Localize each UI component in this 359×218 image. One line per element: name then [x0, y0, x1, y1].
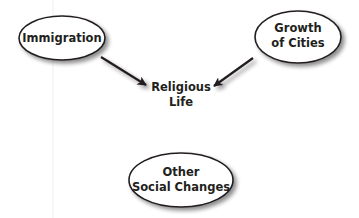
edge-immigration-to-religious-life — [101, 57, 146, 85]
node-growth-of-cities: Growth of Cities — [255, 11, 341, 63]
edge-growth-of-cities-to-religious-life — [214, 58, 253, 86]
node-label-line-1: Growth — [274, 21, 321, 35]
node-immigration: Immigration — [19, 16, 105, 60]
node-label-line-2: of Cities — [271, 36, 325, 50]
node-label-line-1: Other — [163, 165, 200, 179]
node-label: Immigration — [22, 31, 101, 45]
node-other-social-changes: Other Social Changes — [129, 153, 233, 207]
node-label-line-2: Social Changes — [132, 180, 230, 194]
arrow-icon — [214, 58, 253, 86]
node-religious-life: Religious Life — [151, 80, 211, 109]
center-label-line-1: Religious — [151, 80, 211, 94]
center-label-line-2: Life — [169, 95, 193, 109]
arrow-icon — [101, 57, 146, 85]
concept-map-diagram: Immigration Growth of Cities Religious L… — [0, 0, 359, 218]
